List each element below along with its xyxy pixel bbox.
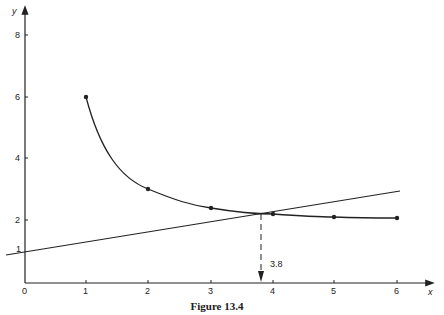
y-tick-4: 4 — [15, 153, 20, 163]
x-axis-label: x — [427, 287, 433, 297]
curve-series — [86, 97, 397, 218]
x-tick-6: 6 — [394, 286, 399, 296]
x-tick-2: 2 — [145, 286, 150, 296]
x-tick-4: 4 — [270, 286, 275, 296]
chart: y x 0 1 2 3 4 5 6 1 2 4 6 8 3.8 — [0, 0, 444, 315]
y-axis-label: y — [11, 6, 17, 16]
curve-markers — [84, 95, 399, 220]
straight-line-series — [6, 191, 400, 255]
y-tick-6: 6 — [15, 92, 20, 102]
x-tick-0: 0 — [22, 286, 27, 296]
x-tick-1: 1 — [83, 286, 88, 296]
x-tick-5: 5 — [331, 286, 336, 296]
x-tick-3: 3 — [208, 286, 213, 296]
y-tick-8: 8 — [15, 30, 20, 40]
arrow-head-icon — [258, 271, 264, 282]
y-tick-2: 2 — [15, 215, 20, 225]
figure-caption: Figure 13.4 — [0, 300, 444, 312]
annotation-label: 3.8 — [270, 259, 283, 269]
